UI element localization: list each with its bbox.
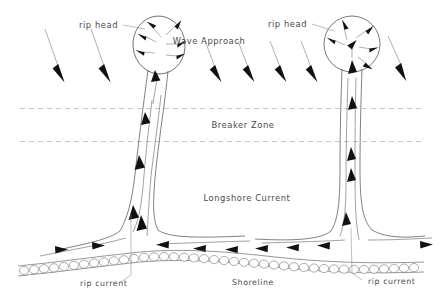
- longshore-arrow-4: [255, 245, 268, 252]
- label-longshore-current: Longshore Current: [204, 193, 291, 203]
- label-rip-current-left: rip current: [80, 279, 127, 288]
- longshore-arrow-5: [286, 244, 299, 251]
- rip-current-diagram: rip head rip head Wave Approach Breaker …: [0, 0, 441, 303]
- leader-rip-current-left: [121, 215, 131, 282]
- rip-channel-right-flow-arrows: [342, 60, 357, 226]
- rip-channel-right: [255, 60, 432, 243]
- label-wave-approach: Wave Approach: [173, 36, 246, 46]
- wave-arrow-3: [205, 41, 221, 82]
- leader-rip-head-left: [123, 25, 145, 29]
- rip-channel-left-east-bank: [154, 71, 245, 237]
- label-breaker-zone: Breaker Zone: [211, 120, 274, 130]
- rip-channel-right-west-bank: [255, 69, 342, 240]
- label-rip-head-left: rip head: [79, 20, 118, 30]
- rip-feeder-left-a: [40, 238, 126, 256]
- label-shoreline: Shoreline: [232, 278, 274, 287]
- longshore-current-arrows: [55, 241, 433, 253]
- rip-feeder-left-b: [160, 241, 250, 244]
- longshore-arrow-1: [156, 241, 169, 249]
- wave-arrow-6: [301, 41, 317, 82]
- rip-feeder-right-a: [262, 240, 345, 243]
- rip-channel-left: [40, 70, 250, 256]
- wave-arrow-2: [91, 29, 111, 83]
- shoreline-pebbles: [19, 253, 418, 275]
- label-rip-current-right: rip current: [368, 277, 415, 286]
- longshore-arrow-6: [317, 242, 330, 249]
- longshore-arrow-left-b: [92, 242, 105, 249]
- rip-feeder-right-b: [368, 238, 432, 240]
- wave-arrow-5: [270, 41, 286, 82]
- longshore-arrow-right-edge: [420, 241, 433, 248]
- rip-channel-right-east-bank: [360, 69, 425, 237]
- diagram-canvas: rip head rip head Wave Approach Breaker …: [0, 0, 441, 303]
- diagram-labels: rip head rip head Wave Approach Breaker …: [79, 19, 415, 288]
- wave-arrow-7: [388, 36, 406, 81]
- label-rip-head-right: rip head: [268, 19, 307, 29]
- leader-rip-head-right: [312, 24, 334, 31]
- wave-arrow-4: [238, 41, 254, 82]
- wave-arrow-1: [45, 29, 65, 83]
- shoreline-band: [18, 250, 424, 276]
- longshore-arrow-left-a: [55, 246, 68, 253]
- rip-channel-left-west-bank: [58, 70, 148, 250]
